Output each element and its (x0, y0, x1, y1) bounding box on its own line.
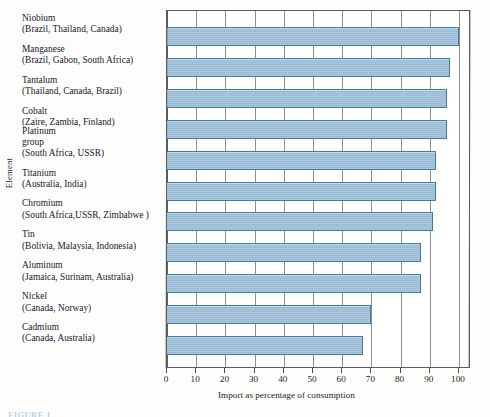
element-sources: (South Africa, USSR) (22, 148, 172, 159)
element-sources: (Bolivia, Malaysia, Indonesia) (22, 241, 172, 252)
element-name: Cadmium (22, 322, 172, 333)
bar-tin (167, 243, 421, 262)
x-tick-label-30: 30 (249, 374, 258, 384)
element-sources: (Jamaica, Surinam, Australia) (22, 272, 172, 283)
bar-cobalt (167, 120, 447, 139)
bar-series (167, 11, 469, 367)
category-label-aluminum: Aluminum(Jamaica, Surinam, Australia) (22, 260, 172, 283)
x-tick-80 (400, 368, 401, 373)
element-name: Titanium (22, 168, 172, 179)
bar-niobium (167, 27, 459, 46)
x-tick-label-80: 80 (395, 374, 404, 384)
x-tick-90 (429, 368, 430, 373)
category-label-manganese: Manganese(Brazil, Gabon, South Africa) (22, 44, 172, 67)
x-tick-label-90: 90 (424, 374, 433, 384)
x-tick-label-40: 40 (278, 374, 287, 384)
x-tick-20 (224, 368, 225, 373)
category-label-platinum-group: Platinumgroup(South Africa, USSR) (22, 126, 172, 160)
y-axis-title: Element (4, 143, 14, 203)
x-tick-label-10: 10 (191, 374, 200, 384)
bar-platinum-group (167, 151, 436, 170)
element-sources: (Thailand, Canada, Brazil) (22, 86, 172, 97)
x-tick-label-70: 70 (366, 374, 375, 384)
category-label-tantalum: Tantalum(Thailand, Canada, Brazil) (22, 75, 172, 98)
x-tick-100 (458, 368, 459, 373)
x-tick-label-20: 20 (220, 374, 229, 384)
category-label-chromium: Chromium(South Africa,USSR, Zimbabwe ) (22, 198, 172, 221)
element-sources: (South Africa,USSR, Zimbabwe ) (22, 210, 172, 221)
x-axis-title: Import as percentage of consumption (218, 390, 355, 400)
x-tick-50 (312, 368, 313, 373)
element-name: Aluminum (22, 260, 172, 271)
element-name: Chromium (22, 198, 172, 209)
bar-cadmium (167, 336, 363, 355)
element-name: Manganese (22, 44, 172, 55)
category-label-column: Niobium(Brazil, Thailand, Canada)Mangane… (22, 10, 162, 368)
element-sources: (Canada, Norway) (22, 303, 172, 314)
x-tick-60 (341, 368, 342, 373)
category-label-nickel: Nickel(Canada, Norway) (22, 291, 172, 314)
x-tick-label-100: 100 (451, 374, 465, 384)
element-sources: (Brazil, Gabon, South Africa) (22, 55, 172, 66)
bar-nickel (167, 305, 371, 324)
x-tick-10 (195, 368, 196, 373)
x-tick-0 (166, 368, 167, 373)
x-tick-label-0: 0 (164, 374, 169, 384)
x-tick-label-50: 50 (307, 374, 316, 384)
x-tick-70 (370, 368, 371, 373)
element-name: Niobium (22, 13, 172, 24)
element-name: Platinum (22, 126, 172, 137)
element-sources: (Brazil, Thailand, Canada) (22, 24, 172, 35)
bar-tantalum (167, 89, 447, 108)
bar-chromium (167, 212, 433, 231)
element-name: Tantalum (22, 75, 172, 86)
element-name-cont: group (22, 137, 172, 148)
category-label-niobium: Niobium(Brazil, Thailand, Canada) (22, 13, 172, 36)
element-sources: (Canada, Australia) (22, 333, 172, 344)
category-label-cadmium: Cadmium(Canada, Australia) (22, 322, 172, 345)
element-sources: (Australia, India) (22, 179, 172, 190)
category-label-tin: Tin(Bolivia, Malaysia, Indonesia) (22, 229, 172, 252)
figure-caption-partial: FIGURE 1 (8, 410, 51, 417)
element-name: Nickel (22, 291, 172, 302)
plot-area (166, 10, 470, 368)
category-label-titanium: Titanium(Australia, India) (22, 168, 172, 191)
bar-titanium (167, 182, 436, 201)
element-name: Cobalt (22, 106, 172, 117)
x-tick-40 (283, 368, 284, 373)
bar-aluminum (167, 274, 421, 293)
element-name: Tin (22, 229, 172, 240)
x-tick-30 (254, 368, 255, 373)
x-tick-label-60: 60 (337, 374, 346, 384)
bar-manganese (167, 58, 450, 77)
